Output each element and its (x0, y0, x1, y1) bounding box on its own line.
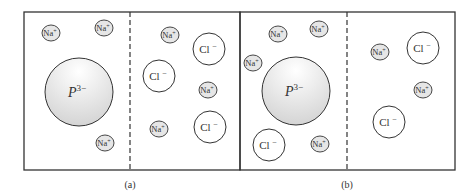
panel-caption: (b) (341, 179, 353, 191)
sodium-ion: Na+ (414, 82, 432, 98)
sodium-ion: Na+ (96, 135, 114, 151)
sodium-ion: Na+ (199, 82, 217, 98)
panel-b: P3−Na+Na+Na+Cl −Na+Na+Cl −Na+Cl −(b) (240, 12, 455, 191)
chloride-ion: Cl − (143, 60, 175, 92)
sodium-ion: Na+ (161, 27, 179, 43)
chloride-ion: Cl − (407, 32, 439, 64)
panel-a: P3−Na+Na+Na+Na+Cl −Cl −Na+Na+Cl −(a) (24, 12, 240, 191)
donnan-equilibrium-diagram: P3−Na+Na+Na+Na+Cl −Cl −Na+Na+Cl −(a)P3−N… (0, 0, 476, 194)
sodium-ion: Na+ (42, 25, 60, 41)
chloride-ion: Cl − (193, 33, 225, 65)
sodium-ion: Na+ (244, 55, 262, 71)
sodium-ion: Na+ (371, 44, 389, 60)
sodium-ion: Na+ (269, 26, 287, 42)
chloride-ion: Cl − (253, 129, 285, 161)
chloride-ion: Cl − (373, 106, 405, 138)
sodium-ion: Na+ (95, 20, 113, 36)
sodium-ion: Na+ (150, 121, 168, 137)
sodium-ion: Na+ (310, 21, 328, 37)
panel-caption: (a) (124, 179, 135, 191)
chloride-ion: Cl − (194, 111, 226, 143)
sodium-ion: Na+ (311, 136, 329, 152)
